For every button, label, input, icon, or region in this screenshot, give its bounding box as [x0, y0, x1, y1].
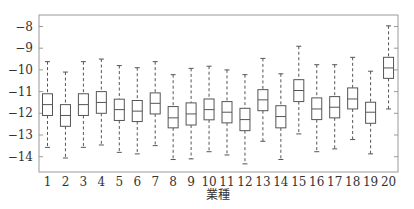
box-5 — [114, 66, 124, 153]
box-4 — [96, 59, 106, 145]
x-tick-label: 9 — [187, 175, 195, 189]
x-tick-label: 11 — [219, 175, 234, 189]
x-axis: 1234567891011121314151617181920 — [44, 175, 397, 189]
x-tick-label: 19 — [363, 175, 378, 189]
box-18 — [348, 57, 358, 139]
x-tick-label: 2 — [62, 175, 70, 189]
x-tick-label: 1 — [44, 175, 52, 189]
x-tick-label: 17 — [327, 175, 342, 189]
x-tick-label: 5 — [115, 175, 123, 189]
plot-frame — [39, 15, 398, 172]
box-12 — [240, 75, 250, 164]
box-9 — [186, 68, 196, 158]
box-7 — [150, 62, 160, 146]
y-tick-label: −12 — [8, 106, 33, 120]
x-tick-label: 8 — [169, 175, 177, 189]
box-15 — [294, 46, 304, 134]
boxplot-chart: −8−9−10−11−12−13−14 12345678910111213141… — [0, 0, 414, 209]
box-3 — [78, 62, 88, 148]
x-tick-label: 3 — [80, 175, 88, 189]
y-tick-label: −8 — [15, 20, 33, 34]
box-17 — [330, 65, 340, 149]
x-tick-label: 18 — [345, 175, 360, 189]
x-tick-label: 16 — [309, 175, 324, 189]
y-tick-label: −10 — [8, 63, 33, 77]
y-tick-label: −13 — [8, 128, 33, 142]
x-tick-label: 13 — [255, 175, 270, 189]
iqr-box — [348, 88, 358, 109]
y-tick-label: −11 — [8, 85, 33, 99]
y-tick-label: −9 — [15, 41, 33, 55]
box-10 — [204, 66, 214, 151]
box-series — [43, 26, 394, 164]
box-19 — [366, 71, 376, 154]
box-11 — [222, 70, 232, 155]
box-1 — [43, 62, 53, 148]
x-tick-label: 12 — [237, 175, 252, 189]
x-tick-label: 7 — [151, 175, 159, 189]
box-6 — [132, 68, 142, 154]
x-tick-label: 14 — [273, 175, 289, 189]
box-8 — [168, 75, 178, 160]
y-tick-label: −14 — [8, 150, 34, 164]
x-axis-title: 業種 — [206, 188, 230, 202]
y-axis: −8−9−10−11−12−13−14 — [8, 20, 398, 164]
x-tick-label: 6 — [133, 175, 141, 189]
iqr-box — [168, 107, 178, 128]
box-14 — [276, 74, 286, 160]
x-tick-label: 15 — [291, 175, 306, 189]
box-13 — [258, 58, 268, 141]
box-16 — [312, 65, 322, 152]
box-20 — [384, 26, 394, 109]
iqr-box — [366, 102, 376, 123]
x-tick-label: 4 — [98, 175, 106, 189]
box-2 — [60, 72, 70, 158]
x-tick-label: 20 — [381, 175, 396, 189]
x-tick-label: 10 — [201, 175, 216, 189]
